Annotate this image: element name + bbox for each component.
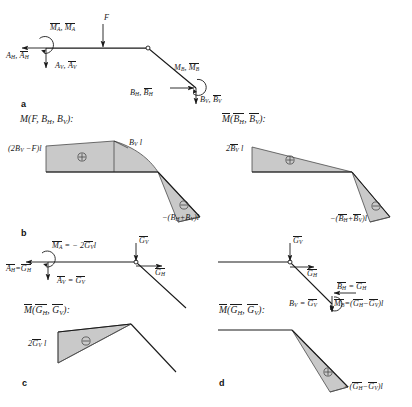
sign-plus-b-right: [286, 156, 294, 164]
label-moment-b: MB, MB: [174, 64, 199, 73]
label-b-h: BH, BH: [130, 89, 153, 98]
label-c-g-h: GH: [155, 269, 165, 278]
value-m-left: (2BV −F)l: [8, 145, 42, 154]
panel-letter-b: b: [21, 228, 27, 238]
area-mbar-positive: [252, 147, 352, 172]
label-c-g-v: GV: [139, 237, 149, 246]
panel-b-left-diagram: [46, 141, 200, 222]
heading-d-diagram: M(GH, GV):: [219, 305, 265, 316]
label-moment-a: MA, MA: [50, 24, 75, 33]
heading-mbar-diagram: M(BH, BV):: [222, 114, 266, 125]
panel-d-diagram: [218, 330, 348, 392]
label-d-b-v: BV = GV: [289, 300, 317, 309]
heading-m-diagram: M(F, BH, BV):: [20, 114, 74, 125]
heading-c-diagram: M(GH, GV):: [24, 305, 70, 316]
sign-plus-b-left: [78, 153, 86, 161]
value-c: 2GV l: [28, 340, 46, 349]
label-d-g-v: GV: [293, 237, 303, 246]
label-force-f: F: [104, 14, 109, 22]
panel-letter-d: d: [219, 378, 225, 388]
panel-b-right-diagram: [252, 147, 390, 222]
value-mbar-left: 2BV l: [226, 145, 243, 154]
label-b-v: BV, BV: [200, 96, 222, 105]
sign-plus-d: [324, 368, 332, 376]
label-c-a-h: AH=GH: [6, 265, 31, 274]
label-d-g-h: GH: [307, 270, 317, 279]
value-m-mid: BV l: [129, 139, 142, 148]
label-d-moment-b: MB=(GH−GV)l: [334, 300, 383, 309]
arc-moment-a: [40, 37, 54, 54]
panel-letter-c: c: [22, 378, 27, 388]
label-c-moment-a: MA = − 2GVl: [52, 242, 96, 251]
value-d: −(GH−GV)l: [344, 383, 383, 392]
panel-letter-a: a: [21, 99, 26, 109]
label-a-h: AH, AH: [6, 52, 29, 61]
label-d-b-h: BH = GH: [337, 283, 366, 292]
panel-c-diagram: [58, 324, 176, 372]
label-c-a-v: AV = GV: [57, 277, 85, 286]
label-a-v: AV, AV: [55, 62, 77, 71]
value-mbar-right: −(BH+BV)l: [330, 215, 367, 224]
value-m-right: −(BH+BV)l: [162, 214, 199, 223]
figure-root: MA, MA F AH, AH AV, AV MB, MB BH, BH BV,…: [0, 0, 412, 407]
